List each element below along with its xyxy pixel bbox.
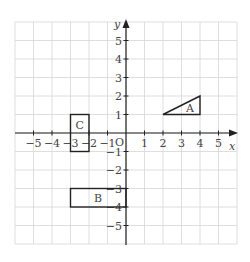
y-axis: [123, 19, 130, 245]
shape-c-label: C: [76, 119, 84, 132]
x-tick-label: 5: [215, 137, 222, 150]
x-axis-label: x: [229, 140, 236, 153]
y-tick-label: 2: [115, 90, 122, 103]
y-tick-label: 4: [115, 53, 122, 66]
shape-b-label: B: [94, 192, 102, 205]
y-tick-label: 5: [115, 35, 122, 48]
x-tick-label: 1: [141, 137, 148, 150]
y-tick-label: 1: [115, 109, 122, 122]
x-tick-label: 3: [178, 137, 185, 150]
y-tick-label: 3: [115, 72, 122, 85]
x-tick-label: −5: [25, 137, 41, 150]
x-tick-label: −4: [44, 137, 60, 150]
shape-a-label: A: [185, 102, 195, 115]
y-tick-label: −5: [106, 220, 122, 233]
origin-label: O: [115, 136, 124, 149]
y-axis-label: y: [113, 18, 121, 31]
x-tick-label: 2: [160, 137, 167, 150]
coordinate-grid: −5−4−3−2−11234554321−1−2−3−4−5 x y O A B…: [0, 0, 250, 262]
y-arrow-icon: [123, 19, 130, 28]
y-tick-label: −2: [106, 164, 122, 177]
x-tick-label: 4: [197, 137, 204, 150]
